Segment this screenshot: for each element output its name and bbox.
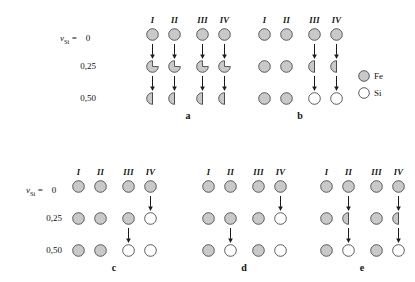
atom-full-gray xyxy=(320,180,333,193)
atom-full-gray xyxy=(258,92,271,105)
atom-full-gray xyxy=(224,212,237,225)
transition-arrow xyxy=(345,195,352,211)
atom-full-white xyxy=(144,244,157,257)
transition-arrow xyxy=(199,75,206,91)
transition-arrow xyxy=(199,43,206,59)
row-label-c-0: 0 xyxy=(52,185,57,195)
column-header-e-4: IV xyxy=(390,167,408,177)
transition-arrow xyxy=(333,75,340,91)
atom-full-gray xyxy=(202,212,215,225)
atom-full-gray xyxy=(252,212,265,225)
atom-full-gray xyxy=(320,244,333,257)
atom-full-gray xyxy=(146,28,159,41)
atom-full-gray xyxy=(392,180,405,193)
atom-full-white xyxy=(308,92,321,105)
transition-arrow xyxy=(277,195,284,211)
panel-label-a: a xyxy=(178,110,198,121)
equals-sign: = xyxy=(72,33,77,43)
atom-full-gray xyxy=(274,180,287,193)
atom-full-gray xyxy=(122,212,135,225)
atom-full-white xyxy=(144,212,157,225)
column-header-e-2: II xyxy=(340,167,358,177)
atom-full-white xyxy=(274,212,287,225)
transition-arrow xyxy=(227,227,234,243)
row-label-a-0: 0 xyxy=(86,33,91,43)
transition-arrow xyxy=(149,75,156,91)
transition-arrow xyxy=(333,43,340,59)
atom-full-gray xyxy=(72,244,85,257)
panel-label-b: b xyxy=(290,110,310,121)
atom-full-white xyxy=(342,244,355,257)
transition-arrow xyxy=(221,75,228,91)
row-label-a-1: 0,25 xyxy=(56,61,96,72)
atom-full-gray xyxy=(280,28,293,41)
column-header-c-3: III xyxy=(120,167,138,177)
column-header-d-3: III xyxy=(250,167,268,177)
atom-full-gray xyxy=(370,212,383,225)
atom-full-gray xyxy=(308,28,321,41)
atom-full-white xyxy=(224,244,237,257)
atom-full-white xyxy=(330,92,343,105)
atom-full-gray xyxy=(370,244,383,257)
column-header-d-2: II xyxy=(222,167,240,177)
atom-full-gray xyxy=(72,212,85,225)
atom-full-gray xyxy=(94,212,107,225)
panel-label-d: d xyxy=(234,262,254,273)
atom-full-white xyxy=(122,244,135,257)
atom-half-gray xyxy=(146,92,159,105)
transition-arrow xyxy=(311,75,318,91)
atom-full-gray xyxy=(258,60,271,73)
atom-full-gray xyxy=(258,28,271,41)
column-header-b-3: III xyxy=(306,15,324,25)
column-header-e-1: I xyxy=(318,167,336,177)
atom-half-gray xyxy=(218,92,231,105)
atom-half-gray xyxy=(168,92,181,105)
transition-arrow xyxy=(171,43,178,59)
column-header-a-3: III xyxy=(194,15,212,25)
atom-pac-gray xyxy=(168,60,181,73)
legend-item-si: Si xyxy=(358,87,382,99)
transition-arrow xyxy=(345,227,352,243)
atom-full-gray xyxy=(320,212,333,225)
atom-full-gray xyxy=(122,180,135,193)
atom-full-gray xyxy=(218,28,231,41)
atom-full-gray xyxy=(370,180,383,193)
legend-swatch-fe-icon xyxy=(358,70,370,82)
column-header-c-1: I xyxy=(70,167,88,177)
atom-full-gray xyxy=(280,92,293,105)
atom-half-gray xyxy=(196,92,209,105)
row-label-a-2: 0,50 xyxy=(56,93,96,104)
transition-arrow xyxy=(147,195,154,211)
column-header-b-4: IV xyxy=(328,15,346,25)
column-header-b-2: II xyxy=(278,15,296,25)
legend-label: Si xyxy=(374,88,382,98)
atom-full-gray xyxy=(252,180,265,193)
atom-full-gray xyxy=(196,28,209,41)
transition-arrow xyxy=(171,75,178,91)
row-label-c-2: 0,50 xyxy=(22,245,62,256)
atom-full-gray xyxy=(202,244,215,257)
column-header-d-1: I xyxy=(200,167,218,177)
transition-arrow xyxy=(311,43,318,59)
atom-pac-gray xyxy=(146,60,159,73)
atom-pac-gray xyxy=(218,60,231,73)
column-header-d-4: IV xyxy=(272,167,290,177)
column-header-a-1: I xyxy=(144,15,162,25)
nu-subscript: Si xyxy=(64,38,69,45)
atom-full-white xyxy=(392,244,405,257)
atom-half-gray xyxy=(342,212,355,225)
atom-full-gray xyxy=(224,180,237,193)
column-header-b-1: I xyxy=(256,15,274,25)
atom-full-gray xyxy=(342,180,355,193)
atom-full-gray xyxy=(252,244,265,257)
atom-full-gray xyxy=(168,28,181,41)
nu-si-axis-label-a: νSi = 0 xyxy=(60,33,90,47)
column-header-a-4: IV xyxy=(216,15,234,25)
atom-pac-gray xyxy=(196,60,209,73)
atom-full-gray xyxy=(280,60,293,73)
atom-full-gray xyxy=(144,180,157,193)
transition-arrow xyxy=(125,227,132,243)
atom-full-gray xyxy=(330,28,343,41)
nu-subscript: Si xyxy=(30,190,35,197)
transition-arrow xyxy=(395,227,402,243)
